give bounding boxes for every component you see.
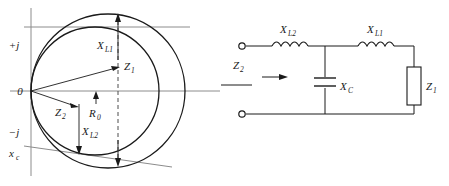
circuit-schematic: Z 2 X L2 X L1 X C Z 1: [221, 23, 437, 117]
circuit-capacitor-xc-label: X C: [339, 80, 354, 95]
negative-imaginary-label: −j: [9, 126, 19, 138]
circuit-inductor-xl2-label-main: X: [279, 23, 288, 35]
resistance-radius-arrow: [93, 91, 99, 104]
capacitive-reference-line: [24, 146, 172, 167]
positive-imaginary-label: +j: [9, 39, 19, 51]
figure-root: +j 0 −j x c X L1 X L2 Z 1 Z 2: [0, 0, 449, 186]
circuit-capacitor-xc-label-sub: C: [348, 86, 354, 95]
circuit-inductor-xl1-label: X L1: [366, 23, 383, 38]
reactance-inductive-1-arrow: [115, 13, 121, 60]
reactance-inductive-1-label-main: X: [96, 39, 105, 51]
circuit-load-z1-label-main: Z: [426, 80, 433, 92]
circuit-inductor-xl1-label-sub: L1: [374, 29, 383, 38]
resistance-radius-label-sub: 0: [97, 113, 101, 122]
reactance-inductive-2-label-main: X: [81, 125, 90, 137]
reactance-inductive-1-label-sub: L1: [104, 45, 113, 54]
capacitive-reactance-label-sub: c: [16, 153, 20, 162]
reactance-inductive-1-label: X L1: [96, 39, 113, 54]
circuit-input-impedance-label: Z 2: [233, 59, 244, 74]
circuit-inductor-xl2-label: X L2: [279, 23, 296, 38]
figure-canvas: +j 0 −j x c X L1 X L2 Z 1 Z 2: [0, 0, 449, 186]
circuit-input-impedance-label-sub: 2: [240, 65, 244, 74]
circuit-inductor-xl2-label-sub: L2: [287, 29, 296, 38]
input-terminal-bottom-icon[interactable]: [239, 111, 245, 117]
circuit-inductor-xl1-label-main: X: [366, 23, 375, 35]
capacitive-reactance-label-main: x: [8, 147, 14, 159]
reactance-inductive-2-label-sub: L2: [89, 131, 98, 140]
impedance-2-direction-arrow: [262, 74, 288, 80]
impedance-1-label-sub: 1: [131, 66, 135, 75]
inductor-xl1-coil: [358, 42, 394, 46]
impedance-2-label-sub: 2: [62, 112, 66, 121]
inductor-xl2-coil: [272, 42, 308, 46]
circuit-load-z1-label: Z 1: [426, 80, 437, 95]
impedance-2-label: Z 2: [55, 106, 66, 121]
impedance-2-label-main: Z: [55, 106, 62, 118]
load-impedance-box: [407, 67, 421, 105]
impedance-circle-diagram: +j 0 −j x c X L1 X L2 Z 1 Z 2: [8, 8, 220, 176]
circuit-capacitor-xc-label-main: X: [339, 80, 348, 92]
reactance-inductive-1-bottom-arrow: [115, 140, 121, 167]
reactance-inductive-2-label: X L2: [81, 125, 98, 140]
circuit-load-z1-label-sub: 1: [433, 86, 437, 95]
circuit-input-impedance-label-main: Z: [233, 59, 240, 71]
resistance-radius-label: R 0: [88, 107, 101, 122]
capacitive-reactance-label: x c: [8, 147, 20, 162]
impedance-1-vector: [31, 66, 120, 91]
resistance-radius-label-main: R: [88, 107, 96, 119]
impedance-1-label-main: Z: [124, 60, 131, 72]
input-terminal-top-icon[interactable]: [239, 43, 245, 49]
origin-label: 0: [17, 85, 23, 97]
impedance-1-label: Z 1: [124, 60, 135, 75]
